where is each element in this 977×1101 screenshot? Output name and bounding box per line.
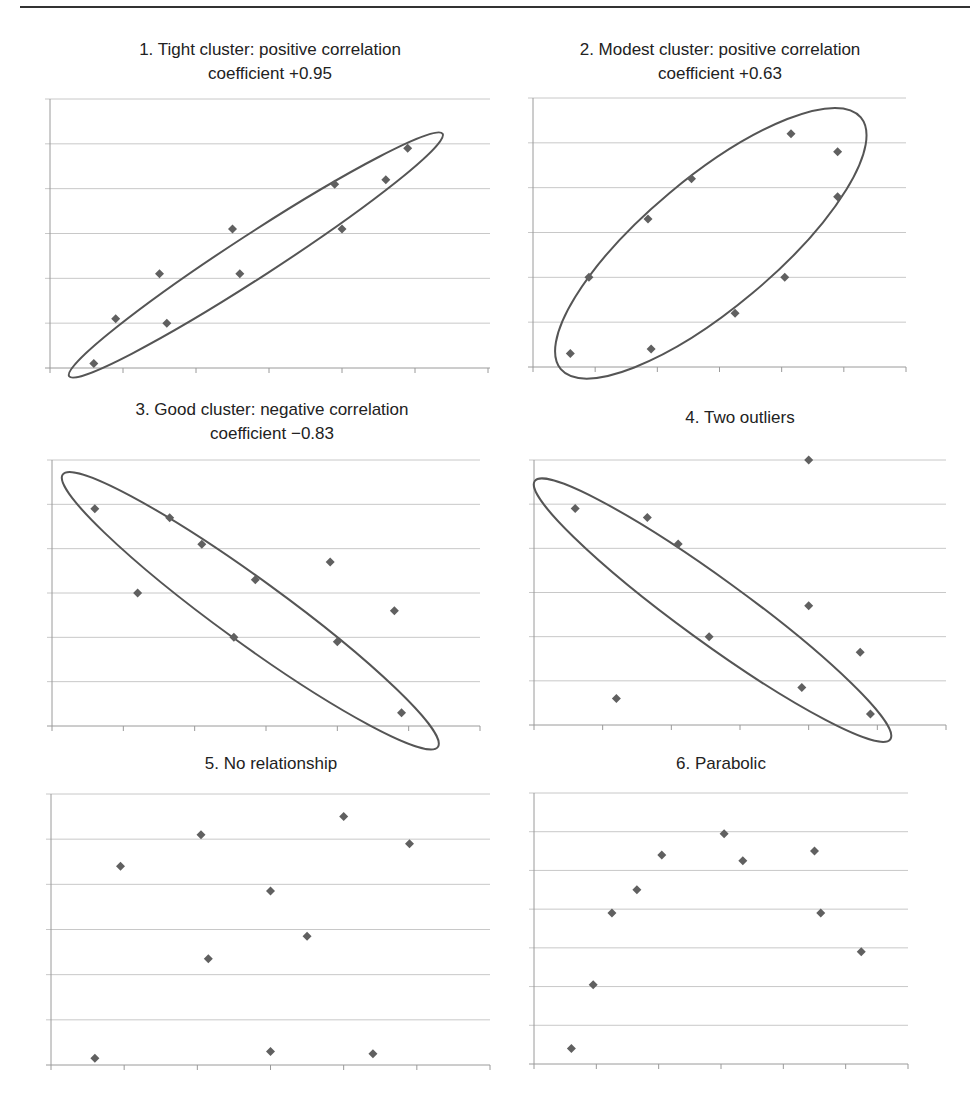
- scatter-plot-2: [528, 96, 911, 375]
- data-point-marker: [687, 174, 696, 183]
- data-point-marker: [810, 847, 819, 856]
- cluster-ellipse: [516, 455, 909, 765]
- data-point-marker: [647, 345, 656, 354]
- data-point-marker: [381, 175, 390, 184]
- data-point-marker: [589, 980, 598, 989]
- data-point-marker: [90, 1054, 99, 1063]
- data-point-marker: [368, 1049, 377, 1058]
- data-point-marker: [797, 683, 806, 692]
- cluster-ellipse: [519, 68, 903, 419]
- data-point-marker: [607, 909, 616, 918]
- chart-title: 4. Two outliers: [534, 406, 946, 430]
- data-point-marker: [162, 319, 171, 328]
- data-point-marker: [632, 885, 641, 894]
- data-point-marker: [566, 349, 575, 358]
- data-point-marker: [116, 862, 125, 871]
- data-point-marker: [816, 909, 825, 918]
- data-point-marker: [155, 269, 164, 278]
- data-point-marker: [339, 812, 348, 821]
- chart-title: 5. No relationship: [51, 752, 491, 776]
- scatter-plot-6: [529, 791, 913, 1072]
- data-point-marker: [235, 269, 244, 278]
- chart-title-line: 1. Tight cluster: positive correlation: [50, 38, 490, 62]
- chart-title-line: coefficient −0.83: [52, 422, 492, 446]
- data-point-marker: [866, 709, 875, 718]
- data-point-marker: [833, 147, 842, 156]
- chart-title-line: 3. Good cluster: negative correlation: [52, 398, 492, 422]
- data-point-marker: [674, 539, 683, 548]
- chart-title: 6. Parabolic: [534, 752, 908, 776]
- cluster-ellipse: [57, 116, 454, 395]
- scatter-plot-3: [47, 458, 485, 734]
- data-point-marker: [133, 589, 142, 598]
- data-point-marker: [266, 887, 275, 896]
- data-point-marker: [720, 829, 729, 838]
- data-point-marker: [705, 632, 714, 641]
- data-point-marker: [196, 830, 205, 839]
- data-point-marker: [786, 129, 795, 138]
- data-point-marker: [111, 314, 120, 323]
- data-point-marker: [804, 601, 813, 610]
- chart-title: 2. Modest cluster: positive correlationc…: [530, 38, 910, 86]
- data-point-marker: [612, 694, 621, 703]
- chart-title-line: coefficient +0.63: [530, 62, 910, 86]
- data-point-marker: [804, 456, 813, 465]
- data-point-marker: [204, 954, 213, 963]
- data-point-marker: [90, 504, 99, 513]
- data-point-marker: [326, 557, 335, 566]
- scatter-plot-5: [46, 792, 495, 1073]
- chart-title: 1. Tight cluster: positive correlationco…: [50, 38, 490, 86]
- data-point-marker: [390, 606, 399, 615]
- scatter-plot-4: [529, 458, 951, 733]
- chart-title: 3. Good cluster: negative correlationcoe…: [52, 398, 492, 446]
- data-point-marker: [643, 513, 652, 522]
- data-point-marker: [738, 856, 747, 865]
- data-point-marker: [405, 839, 414, 848]
- chart-title-line: coefficient +0.95: [50, 62, 490, 86]
- data-point-marker: [89, 359, 98, 368]
- data-point-marker: [330, 180, 339, 189]
- data-point-marker: [266, 1047, 275, 1056]
- data-point-marker: [303, 932, 312, 941]
- chart-title-line: 4. Two outliers: [534, 406, 946, 430]
- data-point-marker: [567, 1044, 576, 1053]
- top-rule: [20, 6, 970, 8]
- data-point-marker: [571, 504, 580, 513]
- chart-title-line: 6. Parabolic: [534, 752, 908, 776]
- scatter-plot-1: [45, 97, 495, 376]
- data-point-marker: [857, 947, 866, 956]
- chart-title-line: 5. No relationship: [51, 752, 491, 776]
- data-point-marker: [228, 225, 237, 234]
- data-point-marker: [856, 648, 865, 657]
- data-point-marker: [657, 850, 666, 859]
- chart-title-line: 2. Modest cluster: positive correlation: [530, 38, 910, 62]
- data-point-marker: [780, 273, 789, 282]
- data-point-marker: [397, 708, 406, 717]
